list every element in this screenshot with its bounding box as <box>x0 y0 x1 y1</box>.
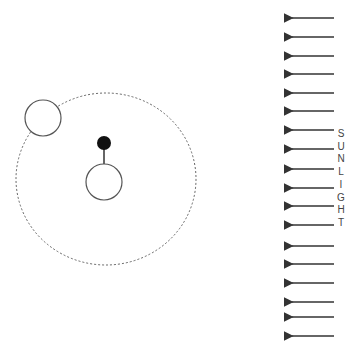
label-letter: S <box>338 128 345 139</box>
label-letter: H <box>337 204 344 215</box>
moon-phase-diagram: S U N L I G H T <box>0 0 360 361</box>
sunlight-arrows <box>292 18 334 336</box>
observer-dot <box>97 136 111 150</box>
moon-circle <box>25 100 61 136</box>
label-letter: U <box>337 141 344 152</box>
label-letter: N <box>337 153 344 164</box>
label-letter: L <box>338 166 344 177</box>
label-letter: T <box>338 217 344 228</box>
label-letter: G <box>337 192 345 203</box>
label-letter: I <box>340 179 343 190</box>
sunlight-label: S U N L I G H T <box>337 128 345 228</box>
earth-circle <box>86 164 122 200</box>
